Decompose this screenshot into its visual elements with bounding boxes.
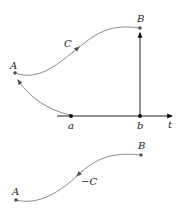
label-A: A	[11, 186, 19, 197]
label-axis-t: t	[168, 119, 173, 130]
point-A	[13, 71, 17, 75]
tick-b	[138, 114, 142, 118]
curve-minus-c	[16, 154, 141, 201]
point-A	[14, 198, 18, 202]
tick-a	[69, 114, 73, 118]
point-B	[138, 26, 142, 30]
top-diagram: A B C a b t	[9, 13, 173, 131]
curve-c	[15, 27, 140, 75]
label-tick-a: a	[68, 120, 74, 131]
curve-parametrization-diagram: A B C a b t A B −C	[0, 0, 185, 213]
curve-c-direction-arrow	[72, 47, 79, 53]
label-C: C	[64, 38, 72, 49]
bottom-diagram: A B −C	[11, 140, 145, 202]
label-A: A	[9, 60, 17, 71]
point-B	[139, 153, 143, 157]
label-B: B	[137, 140, 145, 151]
map-arrow-a-to-A	[18, 80, 70, 115]
label-minus-C: −C	[81, 176, 97, 187]
label-B: B	[136, 13, 144, 24]
label-tick-b: b	[137, 120, 143, 131]
